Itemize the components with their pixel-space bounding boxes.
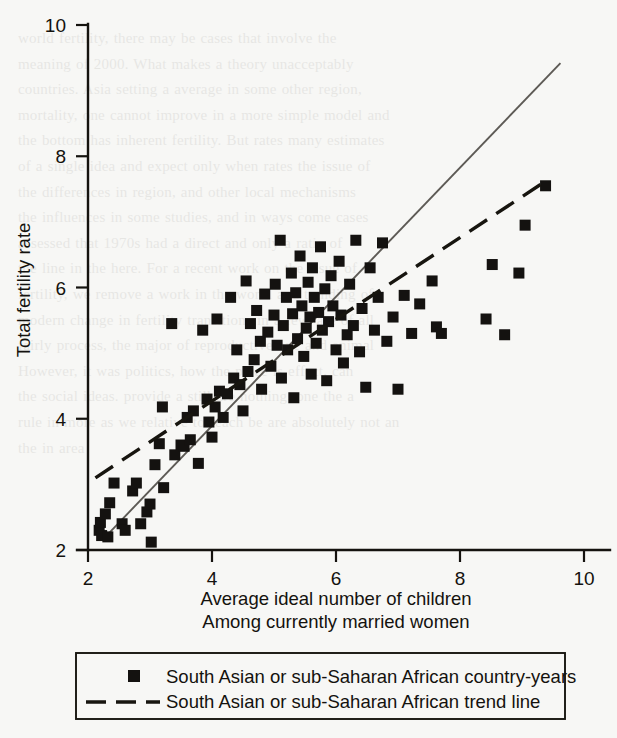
scatter-point — [238, 405, 249, 416]
scatter-point — [146, 537, 157, 548]
y-axis-title: Total fertility rate — [13, 223, 34, 358]
y-tick-label: 6 — [55, 278, 66, 299]
regression-reference-line — [107, 63, 561, 536]
scatter-point — [145, 499, 156, 510]
scatter-point — [135, 518, 146, 529]
scatter-point — [157, 401, 168, 412]
scatter-point — [303, 277, 314, 288]
x-tick-label: 6 — [331, 568, 342, 589]
scatter-point — [357, 303, 368, 314]
scatter-point — [251, 305, 262, 316]
scatter-point — [242, 366, 253, 377]
y-tick-label: 4 — [55, 409, 66, 430]
scatter-point — [288, 392, 299, 403]
scatter-point — [338, 357, 349, 368]
scatter-point — [296, 300, 307, 311]
scatter-point — [326, 270, 337, 281]
scatter-point — [334, 256, 345, 267]
y-axis-ticks: 246810 — [45, 15, 88, 561]
scatter-point — [406, 328, 417, 339]
scatter-point — [427, 275, 438, 286]
scatter-point — [350, 235, 361, 246]
x-tick-label: 10 — [573, 568, 594, 589]
scatter-point — [149, 459, 160, 470]
scatter-point — [298, 351, 309, 362]
x-tick-label: 2 — [83, 568, 94, 589]
scatter-point — [197, 325, 208, 336]
y-tick-label: 10 — [45, 15, 66, 36]
trend-line-dashed — [95, 181, 545, 478]
scatter-point — [218, 412, 229, 423]
scatter-point — [295, 251, 306, 262]
scatter-point — [301, 323, 312, 334]
scatter-point — [203, 417, 214, 428]
scatter-plot: 246810 246810 Total fertility rate Avera… — [0, 0, 617, 738]
legend-label-trend-line: South Asian or sub-Saharan African trend… — [166, 691, 540, 712]
scatter-point — [369, 325, 380, 336]
scatter-point — [275, 235, 286, 246]
scatter-point — [499, 329, 510, 340]
scatter-point — [241, 275, 252, 286]
scatter-point — [487, 259, 498, 270]
scatter-point — [354, 346, 365, 357]
scatter-point — [269, 310, 280, 321]
scatter-point — [109, 478, 120, 489]
scatter-point — [381, 336, 392, 347]
scatter-point — [292, 333, 303, 344]
x-axis-title-line2: Among currently married women — [202, 611, 469, 632]
scatter-point — [377, 237, 388, 248]
scatter-point — [540, 180, 551, 191]
scatter-point — [311, 338, 322, 349]
scatter-point — [278, 320, 289, 331]
scatter-point — [513, 268, 524, 279]
scatter-point — [313, 307, 324, 318]
scatter-point — [231, 344, 242, 355]
scatter-point — [207, 432, 218, 443]
scatter-point — [348, 320, 359, 331]
x-tick-label: 4 — [207, 568, 218, 589]
scatter-point — [315, 241, 326, 252]
scatter-point — [259, 289, 270, 300]
scatter-point — [256, 384, 267, 395]
x-tick-label: 8 — [455, 568, 466, 589]
trend-line-segment — [95, 181, 545, 478]
scatter-point — [102, 531, 113, 542]
scatter-point — [100, 508, 111, 519]
scatter-point — [319, 283, 330, 294]
scatter-point — [365, 262, 376, 273]
scatter-point — [307, 262, 318, 273]
legend-label-country-years: South Asian or sub-Saharan African count… — [166, 666, 576, 687]
scatter-point — [193, 458, 204, 469]
scatter-point — [399, 290, 410, 301]
y-tick-label: 8 — [55, 146, 66, 167]
scatter-point — [436, 328, 447, 339]
scatter-point — [120, 525, 131, 536]
scatter-point — [185, 434, 196, 445]
scatter-point — [225, 292, 236, 303]
scatter-point — [344, 279, 355, 290]
scatter-point — [306, 369, 317, 380]
scatter-point — [272, 340, 283, 351]
figure-panel: world fertility, there may be cases that… — [0, 0, 617, 738]
reference-line-segment — [107, 63, 561, 536]
scatter-point — [331, 344, 342, 355]
scatter-point — [262, 327, 273, 338]
scatter-point — [166, 318, 177, 329]
scatter-point — [309, 292, 320, 303]
legend: South Asian or sub-Saharan African count… — [76, 653, 576, 719]
scatter-point — [520, 220, 531, 231]
scatter-point — [481, 314, 492, 325]
scatter-point — [245, 318, 256, 329]
scatter-point — [388, 312, 399, 323]
scatter-point — [393, 384, 404, 395]
scatter-point — [286, 268, 297, 279]
scatter-markers-group — [94, 180, 551, 547]
scatter-point — [249, 354, 260, 365]
scatter-point — [276, 373, 287, 384]
scatter-point — [270, 279, 281, 290]
scatter-point — [414, 298, 425, 309]
x-axis-ticks: 246810 — [83, 550, 595, 589]
scatter-point — [211, 314, 222, 325]
scatter-point — [360, 382, 371, 393]
scatter-point — [104, 497, 115, 508]
